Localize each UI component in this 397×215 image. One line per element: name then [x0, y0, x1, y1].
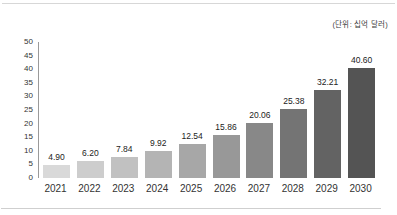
- chart-frame: (단위: 십억 달러) 05101520253035404550 4.906.2…: [0, 0, 397, 215]
- x-tick-label: 2023: [106, 183, 140, 194]
- bottom-divider: [1, 208, 381, 209]
- x-tick-label: 2022: [72, 183, 106, 194]
- y-tick-label: 45: [0, 51, 33, 61]
- unit-annotation-label: (단위: 십억 달러): [333, 18, 388, 29]
- bar-2029: [314, 90, 341, 178]
- bar-value-label: 32.21: [311, 77, 345, 87]
- bar-value-label: 15.86: [209, 122, 243, 132]
- y-tick-label: 15: [0, 132, 33, 142]
- y-axis-ticks: 05101520253035404550: [0, 42, 33, 178]
- y-tick-label: 35: [0, 78, 33, 88]
- bar-value-label: 7.84: [107, 144, 141, 154]
- x-tick-label: 2021: [39, 183, 73, 194]
- y-tick-label: 25: [0, 105, 33, 115]
- top-divider: [2, 3, 395, 4]
- x-tick-label: 2028: [276, 183, 310, 194]
- x-tick-label: 2027: [242, 183, 276, 194]
- bar-2030: [348, 68, 375, 178]
- bar-2028: [280, 109, 307, 178]
- x-tick-label: 2025: [174, 183, 208, 194]
- bar-value-label: 25.38: [277, 96, 311, 106]
- x-tick-label: 2029: [310, 183, 344, 194]
- x-axis-labels: 2021202220232024202520262027202820292030: [38, 183, 384, 196]
- bar-value-label: 12.54: [175, 131, 209, 141]
- x-tick-label: 2026: [208, 183, 242, 194]
- bar-2026: [213, 135, 240, 178]
- bar-value-label: 4.90: [40, 152, 74, 162]
- y-tick-label: 0: [0, 173, 33, 183]
- bar-2023: [111, 157, 138, 178]
- y-tick-label: 30: [0, 91, 33, 101]
- y-tick-label: 40: [0, 64, 33, 74]
- bar-value-label: 6.20: [73, 148, 107, 158]
- x-tick-label: 2030: [344, 183, 378, 194]
- y-tick-label: 50: [0, 37, 33, 47]
- y-tick-label: 5: [0, 159, 33, 169]
- y-tick-label: 20: [0, 119, 33, 129]
- y-tick-label: 10: [0, 146, 33, 156]
- bar-value-label: 40.60: [345, 55, 379, 65]
- bar-2024: [145, 151, 172, 178]
- bar-2021: [43, 165, 70, 178]
- bar-2022: [77, 161, 104, 178]
- bar-value-label: 9.92: [141, 138, 175, 148]
- plot-area: 4.906.207.849.9212.5415.8620.0625.3832.2…: [38, 42, 385, 178]
- bar-value-label: 20.06: [243, 110, 277, 120]
- bar-2025: [179, 144, 206, 178]
- bar-2027: [246, 123, 273, 178]
- x-tick-label: 2024: [140, 183, 174, 194]
